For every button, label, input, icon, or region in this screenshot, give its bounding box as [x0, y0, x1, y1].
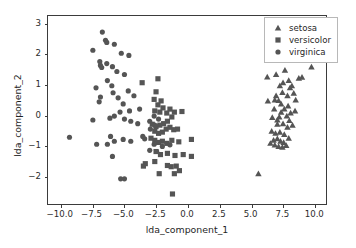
data-point — [107, 116, 112, 121]
data-point — [292, 108, 298, 114]
data-point — [280, 79, 286, 85]
circle-marker-icon — [270, 47, 286, 57]
data-point — [176, 139, 181, 144]
x-tick-mark — [283, 204, 284, 208]
series-setosa — [255, 64, 315, 176]
data-point — [169, 114, 174, 119]
data-point — [140, 134, 145, 139]
data-point — [167, 107, 172, 112]
data-point — [90, 48, 95, 53]
legend-item-virginica: virginica — [270, 46, 331, 58]
data-point — [167, 142, 172, 147]
legend-item-versicolor: versicolor — [270, 34, 331, 46]
x-tick-label: −5.0 — [113, 209, 134, 219]
data-point — [110, 90, 115, 95]
data-point — [255, 170, 261, 176]
x-tick-mark — [315, 204, 316, 208]
x-tick-mark — [93, 204, 94, 208]
data-point — [131, 93, 136, 98]
data-point — [121, 101, 126, 106]
data-point — [291, 90, 297, 96]
data-point — [292, 97, 298, 103]
legend: setosaversicolorvirginica — [264, 17, 338, 63]
data-point — [172, 153, 177, 158]
x-tick-label: 0.0 — [180, 209, 194, 219]
x-tick-mark — [252, 204, 253, 208]
data-point — [127, 108, 132, 113]
data-point — [152, 108, 157, 113]
data-point — [160, 139, 165, 144]
data-point — [108, 134, 113, 139]
data-point — [181, 152, 186, 157]
data-point — [122, 72, 127, 77]
data-point — [112, 42, 117, 47]
data-point — [100, 29, 105, 34]
data-point — [104, 61, 109, 66]
data-point — [285, 103, 291, 109]
data-point — [152, 142, 157, 147]
square-marker-icon — [270, 35, 286, 45]
data-point — [110, 64, 115, 69]
data-point — [121, 137, 126, 142]
data-point — [169, 164, 174, 169]
data-point — [154, 149, 159, 154]
data-point — [153, 89, 158, 94]
data-point — [174, 164, 179, 169]
y-tick-mark — [45, 116, 49, 117]
data-point — [148, 127, 153, 132]
data-point — [165, 151, 170, 156]
legend-item-setosa: setosa — [270, 22, 331, 34]
x-tick-label: −10.0 — [47, 209, 73, 219]
data-point — [110, 154, 115, 159]
data-point — [285, 77, 291, 83]
data-point — [126, 88, 131, 93]
x-axis-label: lda_component_1 — [47, 224, 327, 235]
data-point — [264, 74, 270, 80]
data-point — [277, 129, 283, 135]
data-point — [172, 171, 177, 176]
data-point — [279, 89, 285, 95]
x-tick-mark — [220, 204, 221, 208]
data-point — [269, 114, 275, 120]
legend-label: setosa — [289, 23, 317, 33]
triangle-marker-icon — [270, 23, 286, 33]
x-tick-label: −2.5 — [145, 209, 166, 219]
data-point — [179, 109, 184, 114]
data-point — [137, 107, 142, 112]
x-tick-mark — [61, 204, 62, 208]
data-point — [94, 142, 99, 147]
data-point — [105, 142, 110, 147]
data-point — [170, 191, 175, 196]
data-point — [271, 106, 277, 112]
data-point — [141, 164, 146, 169]
data-point — [169, 138, 174, 143]
data-point — [104, 40, 109, 45]
data-point — [109, 83, 114, 88]
y-tick-mark — [45, 177, 49, 178]
data-point — [155, 76, 160, 81]
data-point — [172, 110, 177, 115]
data-point — [177, 168, 182, 173]
legend-label: virginica — [289, 47, 326, 57]
x-tick-label: −7.5 — [81, 209, 102, 219]
y-tick-mark — [45, 24, 49, 25]
data-point — [160, 105, 165, 110]
data-point — [160, 144, 165, 149]
y-tick-mark — [45, 54, 49, 55]
data-point — [147, 119, 152, 124]
data-point — [273, 71, 279, 77]
data-point — [308, 64, 314, 70]
data-point — [105, 78, 110, 83]
data-point — [112, 113, 117, 118]
x-tick-label: 10.0 — [305, 209, 324, 219]
data-point — [147, 148, 152, 153]
data-point — [122, 117, 127, 122]
data-point — [122, 176, 127, 181]
data-point — [90, 117, 95, 122]
x-tick-label: 2.5 — [212, 209, 226, 219]
data-point — [128, 139, 133, 144]
x-tick-label: 5.0 — [244, 209, 258, 219]
y-tick-mark — [45, 85, 49, 86]
data-point — [117, 110, 122, 115]
data-point — [284, 93, 290, 99]
